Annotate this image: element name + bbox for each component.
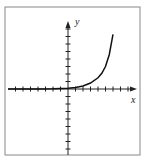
y-axis-label: y: [75, 16, 79, 27]
function-curve: [8, 34, 113, 89]
x-axis-label: x: [131, 94, 135, 105]
chart-frame: [5, 7, 140, 155]
chart-canvas: [0, 0, 143, 161]
